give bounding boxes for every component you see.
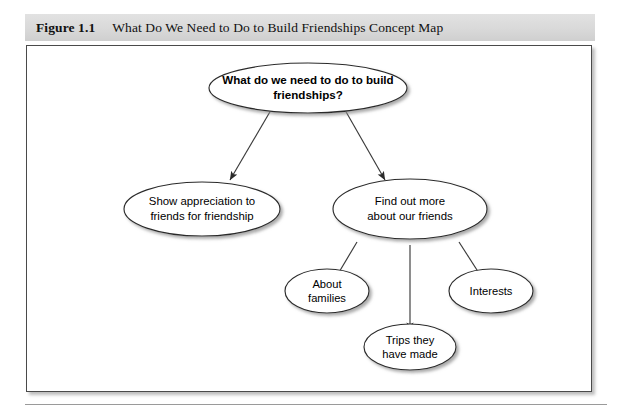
node-show-appreciation-line1: Show appreciation to — [149, 195, 255, 207]
node-root[interactable]: What do we need to do to build friendshi… — [209, 63, 407, 113]
concept-map-frame: What do we need to do to build friendshi… — [26, 45, 592, 392]
node-root-line1: What do we need to do to build — [222, 73, 393, 86]
node-about-families-line2: families — [308, 292, 346, 304]
node-trips-they-have-made-ellipse — [364, 324, 456, 370]
node-about-families-ellipse — [285, 269, 369, 313]
node-show-appreciation-line2: friends for friendship — [150, 210, 253, 222]
node-find-out-more-line2: about our friends — [367, 210, 453, 222]
node-about-families[interactable]: About families — [285, 269, 369, 313]
node-interests[interactable]: Interests — [449, 269, 533, 313]
edge-root-to-show-appreciation — [230, 110, 271, 180]
concept-map-diagram: What do we need to do to build friendshi… — [27, 46, 593, 393]
node-trips-they-have-made[interactable]: Trips they have made — [364, 324, 456, 370]
footer-divider — [25, 404, 607, 405]
figure-title: What Do We Need to Do to Build Friendshi… — [112, 20, 443, 36]
node-find-out-more-line1: Find out more — [375, 195, 445, 207]
node-root-line2: friendships? — [273, 88, 343, 101]
node-trips-line1: Trips they — [386, 334, 435, 346]
node-trips-line2: have made — [382, 348, 437, 360]
figure-container: Figure 1.1 What Do We Need to Do to Buil… — [0, 0, 619, 414]
node-find-out-more[interactable]: Find out more about our friends — [333, 179, 487, 239]
figure-caption-band: Figure 1.1 What Do We Need to Do to Buil… — [25, 14, 595, 41]
edge-root-to-find-out-more — [345, 110, 385, 180]
node-show-appreciation[interactable]: Show appreciation to friends for friends… — [124, 182, 280, 236]
node-interests-line1: Interests — [470, 285, 513, 297]
node-about-families-line1: About — [312, 278, 342, 290]
figure-number-label: Figure 1.1 — [36, 20, 95, 36]
